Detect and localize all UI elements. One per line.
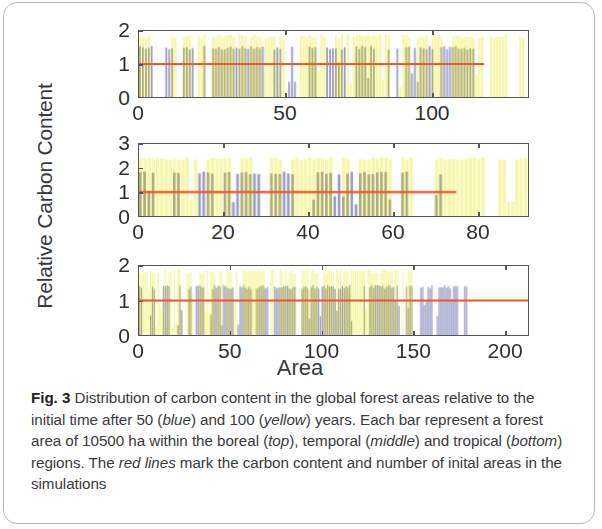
subplot-bottom-ytickmark-2	[138, 265, 143, 267]
subplot-middle-xtickmark-20	[223, 143, 225, 148]
subplot-top-xtickmark-100	[432, 93, 434, 98]
subplot-bottom-xtickmark-50	[230, 265, 232, 270]
caption-segment: red lines	[119, 454, 176, 471]
subplot-bottom-xtick-100: 100	[304, 340, 339, 361]
subplot-bottom-xtickmark-100	[322, 265, 324, 270]
subplot-bottom-xtickmark-100	[322, 331, 324, 336]
y-axis-label: Relative Carbon Content	[30, 21, 60, 371]
subplot-middle-bars	[139, 144, 528, 216]
subplot-middle-xtickmark-60	[393, 212, 395, 217]
subplot-bottom-xtick-200: 200	[488, 340, 523, 361]
subplot-middle-xtick-60: 60	[381, 221, 404, 242]
subplot-bottom-ytick-2: 2	[100, 254, 130, 275]
subplot-bottom-ytickmark-1	[138, 301, 143, 303]
subplot-middle-ytickmark-2	[138, 168, 143, 170]
subplot-bottom-xtickmark-50	[230, 331, 232, 336]
subplot-top-xtickmark-50	[285, 93, 287, 98]
subplot-top-ytick-2: 2	[100, 19, 130, 40]
subplot-middle-ytick-0: 0	[100, 206, 130, 227]
caption-segment: ) and tropical (	[415, 432, 511, 449]
subplot-middle-ytick-3: 3	[100, 132, 130, 153]
caption-segment: middle	[370, 432, 414, 449]
subplot-top-ytickmark-2	[138, 30, 143, 32]
subplot-bottom-xtickmark-200	[505, 265, 507, 270]
y-axis-label-text: Relative Carbon Content	[33, 83, 57, 308]
subplot-middle-xtickmark-20	[223, 212, 225, 217]
subplot-bottom-xtickmark-150	[413, 331, 415, 336]
subplot-bottom-xtickmark-200	[505, 331, 507, 336]
subplot-middle-xtickmark-60	[393, 143, 395, 148]
caption-segment: blue	[162, 411, 191, 428]
subplot-middle-xtickmark-80	[478, 143, 480, 148]
figure-card: Relative Carbon Content Area 01205010001…	[3, 2, 595, 524]
subplot-top-bars	[139, 31, 528, 97]
subplot-middle-xtick-40: 40	[296, 221, 319, 242]
subplot-top-ytick-0: 0	[100, 87, 130, 108]
subplot-top-xtickmark-50	[285, 30, 287, 35]
plot-area: Relative Carbon Content Area 01205010001…	[4, 3, 595, 385]
subplot-middle-ytickmark-3	[138, 143, 143, 145]
subplot-top-xtickmark-100	[432, 30, 434, 35]
subplot-top-ytickmark-1	[138, 64, 143, 66]
subplot-middle-ytick-2: 2	[100, 157, 130, 178]
caption-segment: Fig. 3	[31, 389, 70, 406]
subplot-bottom-xtickmark-150	[413, 265, 415, 270]
subplot-bottom	[138, 265, 529, 336]
figure-caption: Fig. 3 Distribution of carbon content in…	[31, 387, 571, 495]
subplot-middle-ytickmark-1	[138, 192, 143, 194]
subplot-top-xtick-50: 50	[273, 102, 296, 123]
subplot-middle	[138, 143, 529, 217]
subplot-top-ytick-1: 1	[100, 53, 130, 74]
subplot-bottom-ytick-0: 0	[100, 325, 130, 346]
subplot-bottom-xtick-150: 150	[396, 340, 431, 361]
subplot-top	[138, 30, 529, 98]
caption-segment: ) and 100 (	[191, 411, 264, 428]
subplot-top-xtick-0: 0	[132, 102, 144, 123]
subplot-middle-xtickmark-40	[308, 212, 310, 217]
subplot-bottom-ytick-1: 1	[100, 290, 130, 311]
subplot-bottom-xtick-50: 50	[218, 340, 241, 361]
subplot-bottom-bars	[139, 266, 528, 335]
caption-segment: bottom	[511, 432, 557, 449]
subplot-top-xtick-100: 100	[414, 102, 449, 123]
caption-segment: ), temporal (	[289, 432, 370, 449]
caption-segment: top	[268, 432, 289, 449]
caption-segment: yellow	[264, 411, 306, 428]
subplot-middle-xtick-20: 20	[211, 221, 234, 242]
subplot-bottom-xtick-0: 0	[132, 340, 144, 361]
subplot-middle-xtickmark-40	[308, 143, 310, 148]
subplot-middle-xtick-80: 80	[466, 221, 489, 242]
subplot-middle-xtickmark-80	[478, 212, 480, 217]
subplot-middle-ytick-1: 1	[100, 181, 130, 202]
subplot-middle-xtick-0: 0	[132, 221, 144, 242]
